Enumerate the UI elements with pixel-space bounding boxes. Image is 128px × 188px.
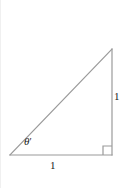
right-angle-marker <box>103 146 112 155</box>
triangle-graphic <box>0 0 128 188</box>
figure-canvas: θ′ 1 1 <box>0 0 128 188</box>
vertical-side-label: 1 <box>114 91 120 102</box>
horizontal-side-label: 1 <box>50 160 56 171</box>
angle-label-theta-prime: θ′ <box>24 136 32 147</box>
angle-label-prime-glyph: ′ <box>29 136 31 147</box>
